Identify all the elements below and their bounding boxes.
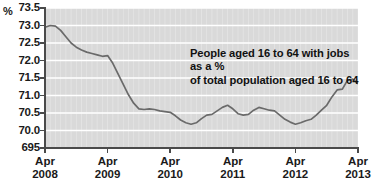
x-axis-tick-label: Apr2013: [328, 155, 376, 180]
x-axis-tick-mark: [232, 148, 234, 153]
x-tick-year: 2008: [15, 168, 75, 181]
x-axis-tick-mark: [169, 148, 171, 153]
x-axis-spine: [44, 147, 359, 149]
x-axis-tick-mark: [107, 148, 109, 153]
x-axis-tick-mark: [295, 148, 297, 153]
x-tick-month: Apr: [15, 155, 75, 168]
x-axis-tick-label: Apr2012: [265, 155, 325, 180]
x-tick-month: Apr: [78, 155, 138, 168]
y-axis-tick-mark: [40, 7, 45, 9]
x-tick-month: Apr: [265, 155, 325, 168]
x-tick-year: 2009: [78, 168, 138, 181]
x-axis-tick-label: Apr2008: [15, 155, 75, 180]
y-axis-tick-mark: [40, 95, 45, 97]
y-axis-tick-label: 71.0: [0, 89, 40, 101]
chart-annotation: People aged 16 to 64 with jobs as a % of…: [190, 47, 362, 87]
x-tick-year: 2010: [140, 168, 200, 181]
y-axis-tick-label: 73.5: [0, 1, 40, 13]
y-axis-tick-label: 71.5: [0, 71, 40, 83]
y-axis-tick-label: 72.0: [0, 54, 40, 66]
x-axis-tick-mark: [44, 148, 46, 153]
x-tick-month: Apr: [203, 155, 263, 168]
y-axis-tick-label: 72.5: [0, 36, 40, 48]
x-axis-tick-label: Apr2010: [140, 155, 200, 180]
y-axis-tick-label: 73.0: [0, 19, 40, 31]
x-axis-tick-mark: [357, 148, 359, 153]
y-axis-tick-mark: [40, 112, 45, 114]
y-axis-tick-mark: [40, 42, 45, 44]
y-axis-tick-mark: [40, 60, 45, 62]
y-axis-tick-label: 695: [0, 141, 40, 153]
y-axis-tick-mark: [40, 77, 45, 79]
y-axis-tick-mark: [40, 25, 45, 27]
x-tick-year: 2013: [328, 168, 376, 181]
x-tick-year: 2011: [203, 168, 263, 181]
annotation-line-1: People aged 16 to 64 with jobs as a %: [190, 47, 362, 74]
x-tick-month: Apr: [328, 155, 376, 168]
y-axis-tick-labels: 73.573.072.572.071.571.070.570.0695: [0, 0, 40, 181]
y-axis-tick-mark: [40, 130, 45, 132]
x-tick-month: Apr: [140, 155, 200, 168]
x-axis-tick-label: Apr2011: [203, 155, 263, 180]
annotation-line-2: of total population aged 16 to 64: [190, 74, 362, 87]
y-axis-tick-label: 70.0: [0, 124, 40, 136]
x-axis-tick-label: Apr2009: [78, 155, 138, 180]
x-tick-year: 2012: [265, 168, 325, 181]
y-axis-tick-label: 70.5: [0, 106, 40, 118]
